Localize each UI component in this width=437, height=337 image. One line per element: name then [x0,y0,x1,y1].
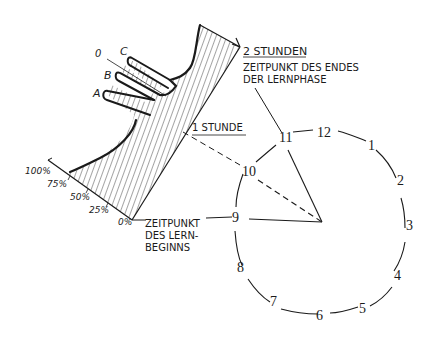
clock-number-11: 11 [279,130,292,145]
label-75-percent: 75% [47,179,67,189]
clock-number-1: 1 [368,138,375,153]
start-line3: BEGINNS [145,242,190,253]
label-a: A [92,87,101,100]
clock-number-5: 5 [359,301,366,316]
clock-number-4: 4 [394,268,401,283]
label-0-percent: 0% [118,217,132,227]
clock-number-3: 3 [406,218,413,233]
clock-number-9: 9 [232,210,239,225]
two-hours-line2: DER LERNPHASE [243,74,327,85]
label-c: C [120,45,128,58]
clock-number-8: 8 [237,260,244,275]
label-b: B [104,69,112,82]
label-25-percent: 25% [89,205,109,215]
clock-number-10: 10 [242,164,256,179]
start-line1: ZEITPUNKT [145,218,201,229]
clock-number-12: 12 [317,125,331,140]
label-zero: 0 [95,48,101,59]
start-line2: DES LERN- [145,230,199,241]
learning-clock-diagram: 100% 75% 50% 25% 0% 0 C B A 2 STUNDEN ZE… [0,0,437,337]
two-hours-annotation: 2 STUNDEN ZEITPUNKT DES ENDES DER LERNPH… [243,45,359,133]
clock-number-2: 2 [397,173,404,188]
clock: 12 1 2 3 4 5 6 7 8 9 10 11 [232,125,413,323]
two-hours-title: 2 STUNDEN [243,45,307,58]
one-hour-label: 1 STUNDE [192,122,243,133]
start-annotation: ZEITPUNKT DES LERN- BEGINNS [132,217,232,253]
label-50-percent: 50% [70,192,90,202]
one-hour-annotation: 1 STUNDE [183,122,246,165]
label-100-percent: 100% [25,166,51,176]
clock-number-6: 6 [316,308,323,323]
clock-number-7: 7 [270,294,277,309]
two-hours-line1: ZEITPUNKT DES ENDES [243,62,359,73]
